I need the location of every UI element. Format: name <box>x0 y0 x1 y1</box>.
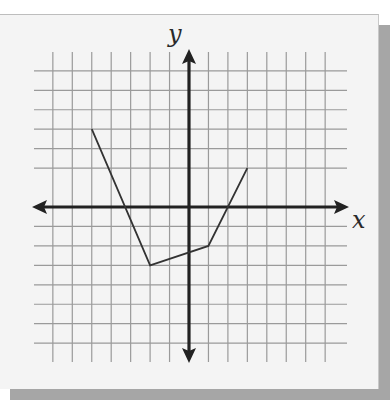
y-axis-label: y <box>167 20 182 48</box>
x-axis-label: x <box>352 206 366 234</box>
axes <box>32 49 349 363</box>
coordinate-plane: x y <box>0 0 392 407</box>
